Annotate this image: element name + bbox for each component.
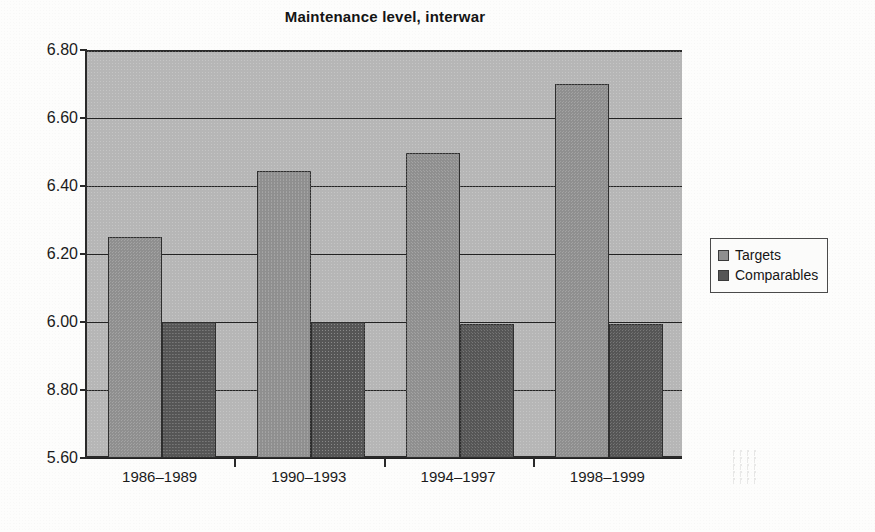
gridline	[87, 50, 682, 52]
legend-item-targets: Targets	[718, 245, 818, 265]
scan-smudge	[733, 450, 759, 484]
bar-targets	[108, 237, 162, 458]
y-tick-label: 6.20	[47, 245, 78, 263]
y-axis: 6.806.606.406.206.008.805.60	[18, 50, 78, 458]
bar-comparables	[460, 324, 514, 458]
y-tick-label: 8.80	[47, 381, 78, 399]
plot-inner	[87, 50, 682, 456]
legend-swatch-comparables-icon	[718, 270, 729, 281]
x-tick-mark	[234, 458, 236, 467]
x-tick-label: 1998–1999	[570, 468, 645, 485]
x-tick-mark	[533, 458, 535, 467]
chart-title: Maintenance level, interwar	[85, 8, 685, 25]
x-axis: 1986–19891990–19931994–19971998–1999	[85, 468, 682, 498]
x-tick-label: 1986–1989	[122, 468, 197, 485]
bar-comparables	[311, 322, 365, 458]
y-tick-label: 6.60	[47, 109, 78, 127]
y-tick-label: 6.40	[47, 177, 78, 195]
chart-figure: Maintenance level, interwar 6.806.606.40…	[0, 0, 875, 532]
bar-targets	[257, 171, 311, 458]
bar-targets	[555, 84, 609, 458]
y-tick-label: 6.80	[47, 41, 78, 59]
chart-legend: Targets Comparables	[710, 238, 828, 293]
legend-swatch-targets-icon	[718, 250, 729, 261]
y-tick-label: 6.00	[47, 313, 78, 331]
bar-comparables	[162, 322, 216, 458]
x-tick-label: 1990–1993	[271, 468, 346, 485]
x-tick-label: 1994–1997	[421, 468, 496, 485]
legend-label-comparables: Comparables	[735, 268, 818, 282]
bar-targets	[406, 153, 460, 458]
y-tick-label: 5.60	[47, 449, 78, 467]
x-tick-mark	[384, 458, 386, 467]
legend-label-targets: Targets	[735, 248, 781, 262]
legend-item-comparables: Comparables	[718, 265, 818, 285]
plot-area	[85, 50, 682, 458]
bar-comparables	[609, 324, 663, 458]
